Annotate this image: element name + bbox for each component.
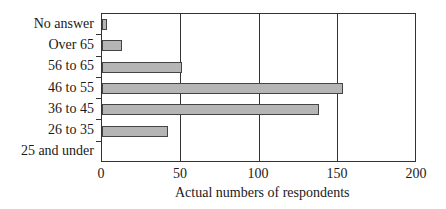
y-category-label: Over 65 xyxy=(49,37,95,53)
bar xyxy=(102,104,319,115)
bar xyxy=(102,40,122,51)
bar xyxy=(102,126,168,137)
bar xyxy=(102,83,343,94)
y-category-label: 46 to 55 xyxy=(48,80,94,96)
x-tick-label: 50 xyxy=(173,166,187,182)
bar-chart: No answerOver 6556 to 6546 to 5536 to 45… xyxy=(0,0,446,209)
y-tick xyxy=(96,34,101,35)
y-tick xyxy=(96,77,101,78)
y-category-label: 25 and under xyxy=(21,143,94,159)
bar xyxy=(102,62,182,73)
y-tick xyxy=(96,98,101,99)
x-axis-title: Actual numbers of respondents xyxy=(175,185,350,201)
y-category-label: 26 to 35 xyxy=(48,122,94,138)
y-tick xyxy=(96,141,101,142)
x-tick-label: 150 xyxy=(327,166,348,182)
y-tick xyxy=(96,56,101,57)
x-tick-label: 0 xyxy=(98,166,105,182)
bar xyxy=(102,19,107,30)
x-tick-label: 200 xyxy=(406,166,427,182)
plot-area xyxy=(101,13,416,162)
x-tick-label: 100 xyxy=(248,166,269,182)
y-category-label: 56 to 65 xyxy=(48,58,94,74)
y-tick xyxy=(96,119,101,120)
y-category-label: No answer xyxy=(34,16,94,32)
y-category-label: 36 to 45 xyxy=(48,101,94,117)
